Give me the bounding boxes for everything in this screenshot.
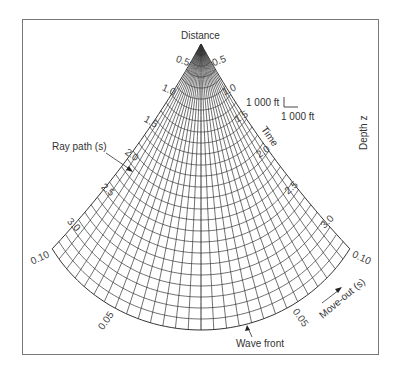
- ray-wavefront-diagram: Distance Depth z Time Move-out (s) Ray p…: [0, 0, 402, 372]
- distance-axis-label: Distance: [181, 30, 220, 42]
- depth-axis-label: Depth z: [358, 116, 370, 150]
- scale-bar-horizontal-label: 1 000 ft: [281, 111, 314, 123]
- scale-bar-vertical-label: 1 000 ft: [246, 97, 279, 109]
- scale-bar-bracket: [284, 97, 298, 107]
- ray-path-label: Ray path (s): [52, 141, 106, 153]
- ray-path-line: [201, 44, 335, 269]
- ray-wavefront-grid: [0, 0, 402, 372]
- wave-front-label: Wave front: [236, 338, 284, 350]
- wave-front-arrowhead-icon: [245, 325, 250, 331]
